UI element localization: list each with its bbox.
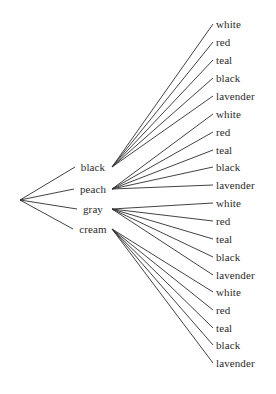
leaf-node-white-0[interactable]: white <box>216 19 241 30</box>
leaf-node-lavender-14[interactable]: lavender <box>216 270 255 281</box>
leaf-node-black-8[interactable]: black <box>216 162 240 173</box>
leaf-node-red-6[interactable]: red <box>216 127 230 138</box>
leaf-node-red-1[interactable]: red <box>216 37 230 48</box>
leaf-node-teal-2[interactable]: teal <box>216 55 232 66</box>
leaf-node-red-11[interactable]: red <box>216 216 230 227</box>
edge-gray-to-teal-12 <box>112 209 213 239</box>
leaf-node-teal-12[interactable]: teal <box>216 234 232 245</box>
edge-root-to-peach-1 <box>20 189 74 200</box>
edge-cream-to-teal-17 <box>112 229 213 328</box>
leaf-node-lavender-4[interactable]: lavender <box>216 91 255 102</box>
leaf-node-lavender-19[interactable]: lavender <box>216 358 255 369</box>
edge-black-to-red-1 <box>112 42 213 167</box>
leaf-node-teal-17[interactable]: teal <box>216 323 232 334</box>
edge-cream-to-red-16 <box>112 229 213 310</box>
edge-cream-to-white-15 <box>112 229 213 292</box>
edge-black-to-black-3 <box>112 78 213 167</box>
level1-node-peach[interactable]: peach <box>80 184 106 195</box>
edge-gray-to-white-10 <box>112 203 213 209</box>
leaf-node-teal-7[interactable]: teal <box>216 145 232 156</box>
edge-peach-to-red-6 <box>112 132 213 189</box>
leaf-node-black-3[interactable]: black <box>216 73 240 84</box>
edge-cream-to-black-18 <box>112 229 213 345</box>
root-edge-group <box>20 167 77 229</box>
leaf-node-black-13[interactable]: black <box>216 252 240 263</box>
leaf-node-white-5[interactable]: white <box>216 109 241 120</box>
edge-cream-to-lavender-19 <box>112 229 213 363</box>
leaf-node-lavender-9[interactable]: lavender <box>216 180 255 191</box>
level1-node-cream[interactable]: cream <box>79 224 106 235</box>
level1-node-black[interactable]: black <box>81 162 105 173</box>
tree-diagram: blackpeachgraycream whiteredtealblacklav… <box>0 0 276 394</box>
leaf-node-black-18[interactable]: black <box>216 340 240 351</box>
edge-black-to-white-0 <box>112 24 213 167</box>
edge-root-to-black-0 <box>20 167 75 200</box>
leaf-edge-group <box>112 24 213 363</box>
leaf-node-red-16[interactable]: red <box>216 305 230 316</box>
level1-node-gray[interactable]: gray <box>83 204 103 215</box>
leaf-node-white-10[interactable]: white <box>216 198 241 209</box>
leaf-node-white-15[interactable]: white <box>216 287 241 298</box>
edge-black-to-lavender-4 <box>112 96 213 167</box>
